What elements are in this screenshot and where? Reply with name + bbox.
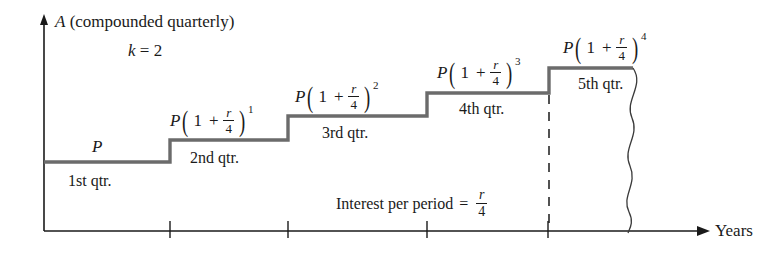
step-5-numerator: r: [617, 33, 626, 47]
step-2-exponent: 1: [248, 104, 254, 115]
parameter-k-variable: k: [128, 41, 136, 60]
left-paren: (: [575, 36, 581, 59]
step-3-denominator: 4: [348, 97, 359, 111]
step-4-paren-group: ( 1 + r 4 ): [447, 58, 514, 87]
left-paren: (: [307, 85, 313, 108]
wavy-break-line: [627, 68, 637, 233]
y-axis-title: A (compounded quarterly): [55, 13, 234, 30]
step-4-numerator: r: [491, 58, 500, 72]
step-3-exponent: 2: [373, 80, 379, 91]
step-5-exponent: 4: [641, 31, 647, 42]
interest-denominator: 4: [476, 204, 487, 219]
step-5-plus: +: [602, 39, 612, 56]
step-5-value-label: P ( 1 + r 4 ) 4: [563, 33, 646, 62]
step-1-base: P: [92, 138, 102, 155]
step-2-quarter-label: 2nd qtr.: [190, 150, 239, 166]
step-4-fraction: r 4: [490, 58, 501, 87]
step-2-denominator: 4: [223, 121, 234, 135]
step-3-base: P: [295, 88, 305, 105]
step-5-inner: 1 + r 4: [583, 33, 630, 62]
compound-interest-step-figure: A (compounded quarterly) k = 2 P 1st qtr…: [0, 0, 765, 274]
right-paren: ): [239, 109, 245, 132]
step-4-quarter-label: 4th qtr.: [459, 101, 504, 117]
figure-graphics: [0, 0, 765, 274]
step-2-paren-group: ( 1 + r 4 ): [180, 106, 247, 135]
step-4-denominator: 4: [490, 73, 501, 87]
step-2-numerator: r: [224, 106, 233, 120]
step-3-numerator: r: [349, 82, 358, 96]
interest-numerator: r: [477, 188, 486, 203]
y-axis-arrowhead: [40, 14, 48, 25]
step-1-value-label: P: [92, 138, 102, 155]
step-3-paren-group: ( 1 + r 4 ): [305, 82, 372, 111]
interest-rate-fraction: r 4: [476, 188, 487, 219]
step-2-plus: +: [209, 112, 219, 129]
interest-per-period-annotation: Interest per period = r 4: [336, 188, 489, 219]
right-paren: ): [632, 36, 638, 59]
step-4-plus: +: [476, 64, 486, 81]
step-3-fraction: r 4: [348, 82, 359, 111]
step-5-denominator: 4: [616, 48, 627, 62]
x-axis-arrowhead: [697, 226, 710, 236]
step-3-plus: +: [334, 88, 344, 105]
step-3-quarter-label: 3rd qtr.: [322, 125, 368, 141]
step-4-inner: 1 + r 4: [457, 58, 504, 87]
step-5-fraction: r 4: [616, 33, 627, 62]
step-3-inner: 1 + r 4: [315, 82, 362, 111]
interest-equals: =: [459, 196, 468, 212]
interest-row: Interest per period = r 4: [336, 188, 489, 219]
parameter-k-value: 2: [154, 41, 163, 60]
step-3-one: 1: [318, 88, 327, 105]
right-paren: ): [364, 85, 370, 108]
left-paren: (: [182, 109, 188, 132]
step-2-value-label: P ( 1 + r 4 ) 1: [170, 106, 253, 135]
step-5-quarter-label: 5th qtr.: [578, 76, 623, 92]
step-2-base: P: [170, 112, 180, 129]
step-5-paren-group: ( 1 + r 4 ): [573, 33, 640, 62]
step-4-value-label: P ( 1 + r 4 ) 3: [437, 58, 520, 87]
step-5-one: 1: [586, 39, 595, 56]
interest-text: Interest per period: [336, 196, 453, 212]
step-1-quarter-label: 1st qtr.: [68, 173, 112, 189]
x-axis-label: Years: [715, 222, 753, 239]
step-4-exponent: 3: [515, 56, 521, 67]
step-2-fraction: r 4: [223, 106, 234, 135]
step-2-one: 1: [193, 112, 202, 129]
y-axis-title-suffix: (compounded quarterly): [70, 12, 235, 31]
y-axis-variable: A: [55, 12, 65, 31]
step-2-inner: 1 + r 4: [190, 106, 237, 135]
parameter-k-label: k = 2: [128, 42, 162, 59]
step-4-base: P: [437, 64, 447, 81]
step-4-one: 1: [460, 64, 469, 81]
parameter-k-equals: =: [140, 41, 150, 60]
step-3-value-label: P ( 1 + r 4 ) 2: [295, 82, 378, 111]
left-paren: (: [449, 61, 455, 84]
step-5-base: P: [563, 39, 573, 56]
right-paren: ): [506, 61, 512, 84]
